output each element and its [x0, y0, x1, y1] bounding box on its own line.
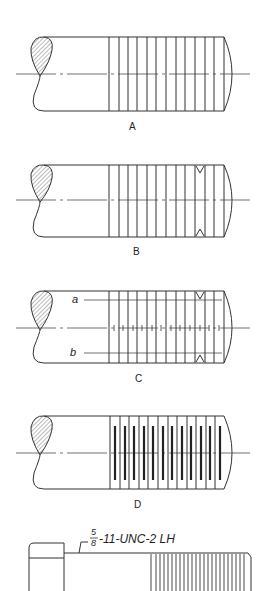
view-label-d: D: [134, 499, 141, 510]
view-d: [16, 416, 250, 489]
root-mark-top: [196, 166, 204, 173]
callout-numerator: 5: [91, 527, 97, 537]
view-b: [16, 165, 250, 237]
view-c: [16, 291, 250, 363]
root-label-b: b: [70, 346, 76, 358]
leader-line: [79, 542, 88, 553]
root-mark-bottom: [196, 229, 204, 236]
root-label-a: a: [72, 293, 78, 305]
callout-spec: -11-UNC-2 LH: [99, 532, 175, 546]
callout-denominator: 8: [91, 538, 96, 548]
view-label-b: B: [133, 246, 140, 257]
break-section: [31, 37, 52, 76]
view-label-c: C: [135, 373, 142, 384]
view-label-a: A: [129, 121, 136, 132]
thread-conventions-drawing: A B: [0, 0, 267, 591]
view-a: [16, 37, 250, 111]
